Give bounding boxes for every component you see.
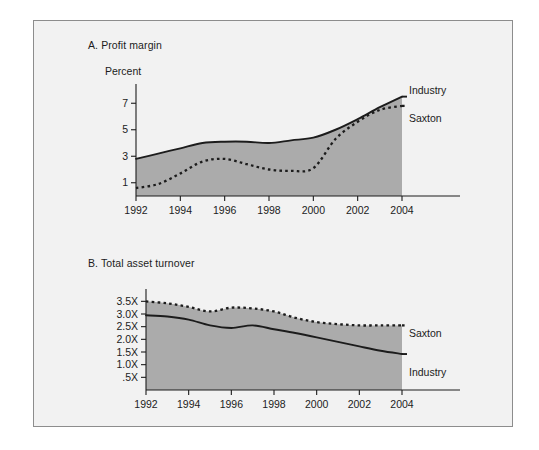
svg-text:1992: 1992 [134,398,158,410]
svg-text:2002: 2002 [348,398,372,410]
panel-profit-margin: A. Profit margin Percent 135719921994199… [0,0,539,235]
svg-text:7: 7 [122,97,128,109]
svg-text:5: 5 [122,123,128,135]
svg-text:3.5X: 3.5X [116,295,138,307]
svg-text:2004: 2004 [390,398,414,410]
svg-text:.5X: .5X [122,371,138,383]
svg-text:1996: 1996 [213,204,237,216]
svg-text:1994: 1994 [177,398,201,410]
svg-text:1994: 1994 [169,204,193,216]
svg-text:2.5X: 2.5X [116,320,138,332]
panel-a-plot: 13571992199419961998200020022004 [0,0,539,235]
svg-text:1998: 1998 [257,204,281,216]
svg-text:2002: 2002 [346,204,370,216]
panel-a-label-industry: Industry [409,84,446,96]
svg-text:3.0X: 3.0X [116,308,138,320]
svg-text:2.0X: 2.0X [116,333,138,345]
svg-text:2000: 2000 [305,398,329,410]
svg-text:2000: 2000 [302,204,326,216]
svg-text:2004: 2004 [390,204,414,216]
panel-b-plot: .5X1.0X1.5X2.0X2.5X3.0X3.5X1992199419961… [0,235,539,450]
panel-total-asset-turnover: B. Total asset turnover .5X1.0X1.5X2.0X2… [0,235,539,450]
svg-text:1.5X: 1.5X [116,346,138,358]
svg-text:1998: 1998 [262,398,286,410]
svg-text:1996: 1996 [220,398,244,410]
svg-text:1.0X: 1.0X [116,358,138,370]
svg-text:1992: 1992 [124,204,148,216]
svg-text:3: 3 [122,150,128,162]
panel-a-label-saxton: Saxton [409,112,442,124]
svg-text:1: 1 [122,176,128,188]
figure-root: A. Profit margin Percent 135719921994199… [0,0,539,450]
panel-b-label-industry: Industry [409,366,446,378]
panel-b-label-saxton: Saxton [409,327,442,339]
